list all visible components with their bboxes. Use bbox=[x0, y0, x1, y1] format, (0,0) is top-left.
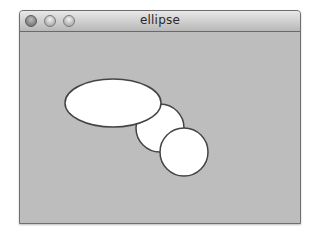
title-bar[interactable]: ellipse bbox=[20, 11, 300, 32]
window-title: ellipse bbox=[20, 13, 300, 27]
drawing-canvas[interactable] bbox=[20, 32, 300, 223]
app-window: ellipse bbox=[19, 10, 301, 224]
large-ellipse bbox=[65, 79, 161, 127]
shapes-layer bbox=[20, 32, 300, 224]
front-circle bbox=[160, 128, 208, 176]
